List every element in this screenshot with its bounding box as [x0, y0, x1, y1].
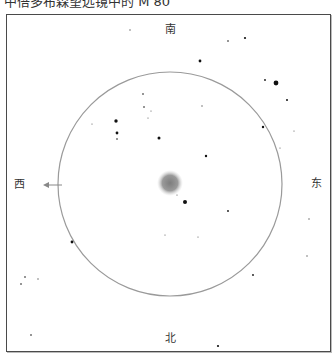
star: [116, 132, 119, 135]
star: [227, 40, 229, 42]
star: [308, 218, 309, 219]
star: [197, 236, 198, 237]
star: [274, 81, 279, 86]
star: [114, 119, 117, 122]
star: [20, 283, 22, 285]
star: [71, 241, 74, 244]
star: [147, 117, 148, 118]
star: [129, 29, 130, 30]
star: [262, 126, 264, 128]
star: [244, 37, 246, 39]
star: [306, 255, 307, 256]
direction-label-east: 东: [309, 177, 323, 191]
star: [264, 79, 266, 81]
star: [116, 138, 118, 140]
star: [201, 105, 202, 106]
star: [30, 334, 32, 336]
star-field: [0, 0, 336, 361]
star: [91, 123, 92, 124]
star: [142, 93, 144, 95]
west-arrow-icon: [43, 182, 62, 188]
direction-label-west: 西: [12, 178, 26, 192]
globular-cluster-m80: [157, 170, 183, 196]
star: [227, 210, 229, 212]
star: [279, 147, 280, 148]
star: [24, 276, 26, 278]
star: [158, 137, 161, 140]
star: [164, 234, 165, 235]
star: [199, 60, 202, 63]
star: [37, 278, 38, 279]
direction-label-north: 北: [163, 332, 177, 346]
star: [150, 110, 151, 111]
star: [217, 345, 219, 347]
star: [286, 99, 288, 101]
star: [143, 106, 145, 108]
star: [205, 155, 207, 157]
star: [293, 130, 294, 131]
direction-label-south: 南: [163, 23, 177, 37]
star: [252, 274, 254, 276]
star: [183, 200, 187, 204]
star: [176, 194, 177, 195]
